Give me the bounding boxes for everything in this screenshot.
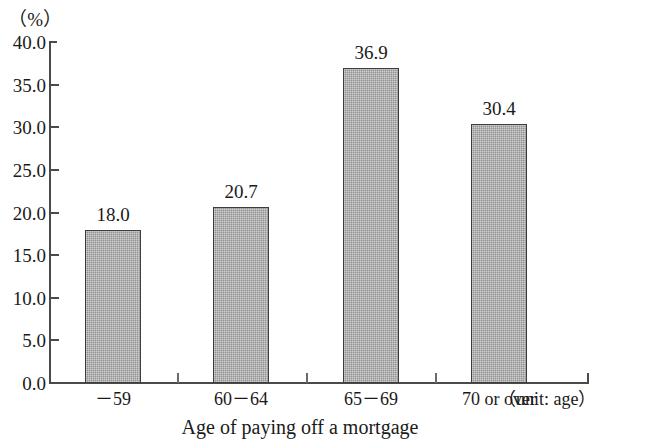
y-axis-tick-label-slot: 30.0 (0, 127, 46, 128)
x-axis-category-label: 65－69 (311, 390, 431, 408)
y-axis-tick-label: 15.0 (0, 246, 46, 265)
y-axis-tick-label: 40.0 (0, 33, 46, 52)
x-axis-category-label: 60－64 (181, 390, 301, 408)
bar-chart: （%） 40.035.030.025.020.015.010.05.00.0 1… (0, 0, 651, 445)
bar-value-label: 18.0 (63, 205, 163, 224)
bar (471, 124, 527, 383)
y-axis-tick-label: 5.0 (0, 331, 46, 350)
bar-value-label: 30.4 (449, 99, 549, 118)
y-axis-tick-label-slot: 40.0 (0, 42, 46, 43)
x-axis-title: Age of paying off a mortgage (0, 417, 600, 437)
bar-value-label: 20.7 (191, 182, 291, 201)
y-axis-tick (51, 339, 59, 341)
y-axis-tick-label: 25.0 (0, 161, 46, 180)
y-axis-tick-label: 35.0 (0, 76, 46, 95)
y-axis-tick-label-slot: 15.0 (0, 255, 46, 256)
y-axis-tick (51, 254, 59, 256)
bar-value-label: 36.9 (321, 43, 421, 62)
bar (343, 68, 399, 383)
y-axis-tick-label-slot: 25.0 (0, 170, 46, 171)
x-axis-tick (177, 373, 179, 383)
y-axis-tick-label: 10.0 (0, 289, 46, 308)
y-axis-tick (51, 126, 59, 128)
y-axis-unit-label: （%） (8, 4, 62, 31)
y-axis-tick (51, 169, 59, 171)
y-axis-top-cap (49, 41, 57, 43)
y-axis-tick-label: 0.0 (0, 374, 46, 393)
bar (213, 207, 269, 383)
y-axis-tick (51, 212, 59, 214)
y-axis-tick-label: 30.0 (0, 118, 46, 137)
x-axis-end-cap (587, 373, 589, 384)
bar (85, 230, 141, 383)
x-axis-tick (435, 373, 437, 383)
x-axis-category-label: －59 (53, 390, 173, 408)
x-axis-tick (306, 373, 308, 383)
y-axis-tick-label-slot: 0.0 (0, 383, 46, 384)
y-axis-tick (51, 297, 59, 299)
y-axis-tick-label-slot: 20.0 (0, 213, 46, 214)
y-axis-tick (51, 84, 59, 86)
y-axis-tick-label: 20.0 (0, 204, 46, 223)
y-axis-tick-label-slot: 35.0 (0, 85, 46, 86)
x-axis-unit-label: （unit: age） (498, 390, 596, 408)
y-axis-tick-label-slot: 5.0 (0, 340, 46, 341)
y-axis-tick-label-slot: 10.0 (0, 298, 46, 299)
